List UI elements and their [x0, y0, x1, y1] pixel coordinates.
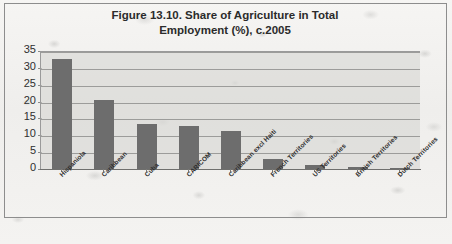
- y-axis-tick-label: 35: [10, 43, 36, 55]
- gridline: [41, 86, 420, 87]
- chart-title: Figure 13.10. Share of Agriculture in To…: [60, 8, 390, 38]
- bar: [94, 100, 114, 169]
- y-axis-tick-label: 20: [10, 94, 36, 106]
- y-axis: 05101520253035: [8, 51, 36, 169]
- chart-title-line-2: Employment (%), c.2005: [60, 23, 390, 38]
- y-axis-tick-label: 0: [10, 161, 36, 173]
- figure-page: Figure 13.10. Share of Agriculture in To…: [0, 0, 452, 244]
- y-axis-tick-label: 5: [10, 144, 36, 156]
- plot-area: [40, 51, 420, 169]
- y-axis-tick-label: 10: [10, 127, 36, 139]
- gridline: [41, 52, 420, 53]
- chart-title-line-1: Figure 13.10. Share of Agriculture in To…: [60, 8, 390, 23]
- bar: [52, 59, 72, 169]
- y-axis-tick-label: 30: [10, 60, 36, 72]
- y-axis-tick-label: 15: [10, 110, 36, 122]
- y-axis-tick-label: 25: [10, 77, 36, 89]
- gridline: [41, 69, 420, 70]
